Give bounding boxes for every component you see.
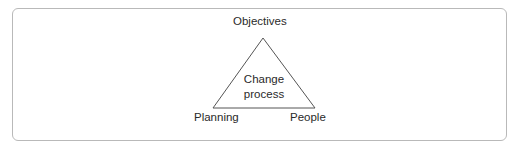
- center-label-line2: process: [238, 87, 290, 102]
- vertex-label-planning: Planning: [194, 111, 239, 123]
- center-label-line1: Change: [238, 72, 290, 87]
- center-label: Change process: [238, 72, 290, 102]
- vertex-label-people: People: [290, 111, 326, 123]
- vertex-label-objectives: Objectives: [233, 15, 287, 27]
